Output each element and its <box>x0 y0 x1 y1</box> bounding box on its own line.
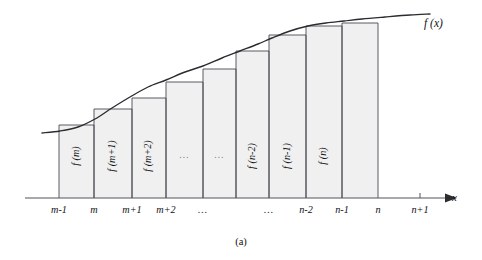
bar-label: … <box>179 149 190 160</box>
bar-label: f (n) <box>317 147 329 165</box>
x-tick-label: m+1 <box>122 204 141 215</box>
bar-fill <box>306 26 342 198</box>
curve-label: f (x) <box>424 17 443 30</box>
bar-fill <box>166 82 203 198</box>
x-tick-label: … <box>197 204 208 215</box>
bar-label: f (n-1) <box>281 143 293 169</box>
x-tick-label: m+2 <box>156 204 175 215</box>
bar-fill <box>342 23 378 198</box>
bar-label: … <box>214 149 225 160</box>
x-tick-label: m-1 <box>51 204 67 215</box>
x-tick-label: n-1 <box>335 204 349 215</box>
figure-container: m-1mm+1m+2……n-2n-1nn+1 f (m)f (m+1)f (m+… <box>0 0 482 260</box>
x-tick-label: … <box>263 204 274 215</box>
x-axis-label: x <box>451 191 457 203</box>
x-tick-label: m <box>90 204 97 215</box>
bar-label: f (n-2) <box>246 143 258 169</box>
bar-fill <box>269 35 306 198</box>
integral-test-diagram: m-1mm+1m+2……n-2n-1nn+1 f (m)f (m+1)f (m+… <box>0 0 482 260</box>
x-tick-label: n+1 <box>411 204 428 215</box>
bar-fill <box>203 69 236 198</box>
bar-fill <box>236 51 269 198</box>
figure-caption: (a) <box>235 236 247 248</box>
x-tick-label: n <box>375 204 380 215</box>
x-tick-label: n-2 <box>299 204 313 215</box>
bar-label: f (m) <box>70 146 82 166</box>
x-tick-label-group: m-1mm+1m+2……n-2n-1nn+1 <box>51 204 428 215</box>
bar-label: f (m+2) <box>142 140 154 172</box>
bar-label: f (m+1) <box>106 140 118 172</box>
